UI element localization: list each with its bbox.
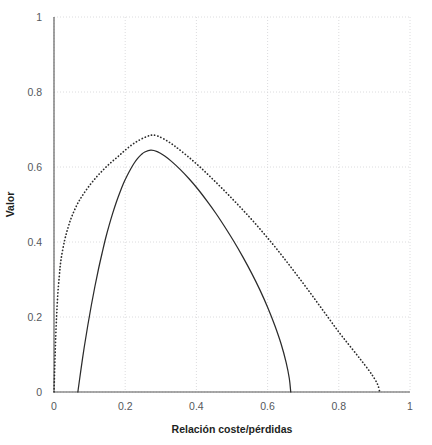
- x-tick-label-2: 0.4: [189, 400, 204, 412]
- y-tick-label-5: 1: [36, 11, 42, 23]
- y-tick-label-3: 0.6: [27, 161, 42, 173]
- figure-background: [0, 0, 432, 445]
- x-tick-label-0: 0: [51, 400, 57, 412]
- x-axis-title: Relación coste/pérdidas: [172, 423, 293, 435]
- y-axis-title: Valor: [4, 192, 16, 218]
- x-tick-label-4: 0.8: [331, 400, 346, 412]
- y-tick-label-0: 0: [36, 386, 42, 398]
- chart-figure: 00.20.40.60.81 00.20.40.60.81 Relación c…: [0, 0, 432, 445]
- x-tick-label-1: 0.2: [118, 400, 133, 412]
- x-tick-label-5: 1: [407, 400, 413, 412]
- y-tick-label-4: 0.8: [27, 86, 42, 98]
- x-tick-label-3: 0.6: [260, 400, 275, 412]
- y-tick-label-2: 0.4: [27, 236, 42, 248]
- y-tick-label-1: 0.2: [27, 311, 42, 323]
- chart-plot-svg: 00.20.40.60.81 00.20.40.60.81 Relación c…: [0, 0, 432, 445]
